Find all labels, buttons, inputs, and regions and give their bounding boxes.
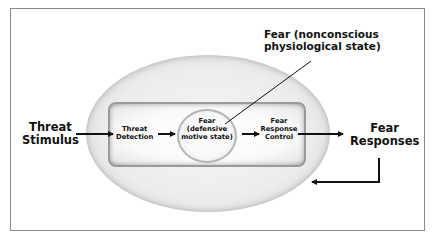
arrow-feedback: [312, 158, 379, 182]
fear-responses-line2: Responses: [350, 135, 419, 148]
fear-nonconscious-line2: physiological state): [264, 40, 381, 52]
fear-defensive-line3: motive state): [181, 134, 233, 142]
fear-defensive-label: Fear (defensive motive state): [181, 118, 233, 141]
threat-stimulus-label: Threat Stimulus: [22, 121, 79, 147]
fear-response-control-line3: Control: [258, 134, 300, 142]
callout-line: [225, 61, 311, 124]
fear-responses-label: Fear Responses: [350, 122, 419, 148]
threat-detection-line2: Detection: [116, 134, 153, 142]
fear-nonconscious-line1: Fear (nonconscious: [264, 28, 381, 40]
fear-response-control-label: Fear Response Control: [258, 118, 300, 141]
threat-stimulus-line2: Stimulus: [22, 134, 79, 147]
fear-nonconscious-label: Fear (nonconscious physiological state): [264, 28, 381, 52]
threat-detection-label: Threat Detection: [116, 126, 153, 142]
